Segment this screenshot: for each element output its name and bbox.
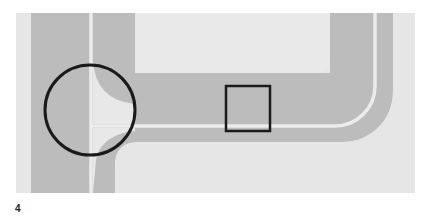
road-diagram: 4 [0,0,427,219]
figure-number: 4 [15,203,21,214]
inner-block-top [136,13,330,73]
